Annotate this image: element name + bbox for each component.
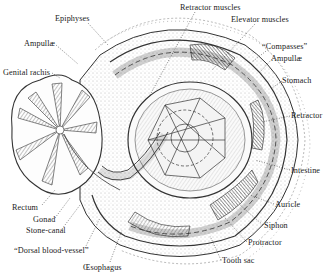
label-ampullae-left: Ampullæ — [24, 40, 55, 48]
label-genital-rachis: Genital rachis — [3, 69, 50, 77]
label-dorsal-blood-vessel: “Dorsal blood-vessel” — [14, 247, 89, 255]
label-auricle: Auricle — [275, 201, 300, 209]
label-stomach: Stomach — [282, 77, 311, 85]
label-epiphyses: Epiphyses — [55, 15, 90, 23]
label-gonad: Gonad — [33, 216, 55, 224]
label-intestine: Intestine — [291, 167, 320, 175]
label-stone-canal: Stone-canal — [26, 227, 66, 235]
label-siphon: Siphon — [264, 222, 288, 230]
label-protractor: Protractor — [248, 239, 282, 247]
label-rectum: Rectum — [12, 204, 38, 212]
label-elevator-muscles: Elevator muscles — [231, 16, 289, 24]
anatomy-figure: Retractor muscles Epiphyses Elevator mus… — [0, 0, 329, 274]
label-compasses: “Compasses” — [262, 43, 307, 51]
label-oesophagus: Œsophagus — [83, 264, 122, 272]
label-retractor: Retractor — [291, 112, 322, 120]
label-tooth-sac: Tooth sac — [222, 257, 254, 265]
label-retractor-muscles: Retractor muscles — [180, 4, 241, 12]
label-ampullae-right: Ampullæ — [271, 55, 302, 63]
